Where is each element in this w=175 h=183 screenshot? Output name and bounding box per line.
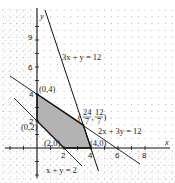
y-tick-6: 6 [28,63,33,72]
label-3x-plus-y-12: 3x + y = 12 [62,52,101,62]
svg-text:(: ( [78,112,81,122]
vertex-2-0: (2,0) [44,138,60,148]
svg-text:): ) [104,112,107,122]
x-tick-4: 4 [88,151,93,160]
svg-text:7: 7 [97,116,101,126]
x-tick-8: 8 [142,151,147,160]
x-tick-6: 6 [115,151,120,160]
svg-text:7: 7 [85,116,89,126]
y-tick-4: 4 [29,90,34,99]
vertex-4-0: (4,0) [90,138,106,148]
vertex-0-2: (0,2) [21,122,37,132]
svg-text:,: , [92,112,94,122]
y-tick-9: 9 [28,33,33,42]
lp-graph: y x 2 4 6 8 2 4 6 9 3x + y = 12 2x + 3y … [0,0,175,183]
label-2x-plus-3y-12: 2x + 3y = 12 [98,126,142,136]
x-axis-label: x [164,137,169,147]
x-tick-2: 2 [61,151,66,160]
label-x-plus-y-2: x + y = 2 [46,165,77,175]
vertex-0-4: (0,4) [39,84,55,94]
y-axis-label: y [39,11,44,21]
